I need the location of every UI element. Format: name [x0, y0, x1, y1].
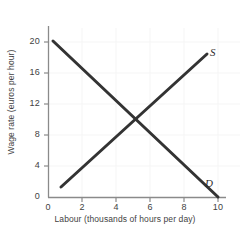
x-tick-label-10: 10	[208, 202, 228, 212]
wage-labour-chart: 20 16 12 8 4 0 0 2 4 6 8 10 S D Labour (…	[0, 0, 250, 234]
supply-curve-label: S	[210, 46, 216, 58]
y-tick-label-12: 12	[18, 98, 40, 108]
demand-curve-label: D	[205, 177, 213, 189]
x-tick-label-0: 0	[38, 202, 58, 212]
y-tick-label-16: 16	[18, 67, 40, 77]
y-axis-title: Wage rate (euros per hour)	[6, 27, 16, 177]
y-tick-label-4: 4	[18, 160, 40, 170]
axes	[48, 26, 226, 198]
y-tick-label-20: 20	[18, 36, 40, 46]
y-tick-label-8: 8	[18, 129, 40, 139]
x-tick-label-4: 4	[106, 202, 126, 212]
y-tick-label-0: 0	[18, 191, 40, 201]
x-tick-label-8: 8	[174, 202, 194, 212]
x-tick-label-6: 6	[140, 202, 160, 212]
y-axis-title-container: Wage rate (euros per hour)	[0, 0, 18, 200]
x-axis-title: Labour (thousands of hours per day)	[0, 214, 250, 224]
x-tick-label-2: 2	[72, 202, 92, 212]
